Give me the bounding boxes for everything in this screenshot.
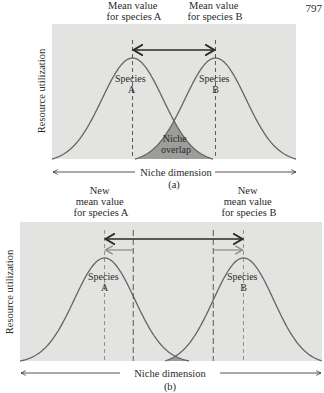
- panel-b-new-mean-a-label: New mean value for species A: [74, 185, 129, 218]
- panel-a-x-axis-label: Niche dimension: [140, 167, 212, 178]
- panel-a-mean-b-label: Mean value for species B: [188, 0, 243, 22]
- panel-b-background: [20, 222, 322, 361]
- panel-b-new-mean-b-label: New mean value for species B: [222, 185, 277, 218]
- panel-a: Mean value for species A Mean value for …: [36, 0, 296, 191]
- panel-a-niche-overlap-label: Niche overlap: [161, 133, 191, 155]
- panel-a-y-axis-label: Resource utilization: [36, 48, 47, 133]
- panel-b-y-axis-label: Resource utilization: [4, 249, 15, 334]
- panel-a-caption: (a): [168, 179, 180, 191]
- panel-b: New mean value for species A New mean va…: [4, 185, 322, 393]
- panel-b-x-axis-label: Niche dimension: [134, 368, 206, 379]
- page-number: 797: [306, 2, 323, 14]
- panel-a-mean-a-label: Mean value for species A: [107, 0, 162, 22]
- panel-b-caption: (b): [164, 381, 177, 393]
- niche-partitioning-figure: 797 Mean value for species A Mean value …: [0, 0, 324, 393]
